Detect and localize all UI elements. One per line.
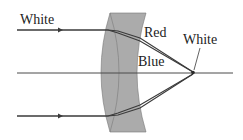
label-focus-white: White [183,33,217,47]
arrow-icon [58,114,63,119]
label-blue: Blue [138,55,164,69]
focal-point [191,71,195,75]
diagram-canvas: White Red Blue White [0,0,243,140]
label-red: Red [144,26,167,40]
focus-leader-line [194,48,200,70]
arrow-icon [58,28,63,33]
label-incoming-white: White [20,13,54,27]
